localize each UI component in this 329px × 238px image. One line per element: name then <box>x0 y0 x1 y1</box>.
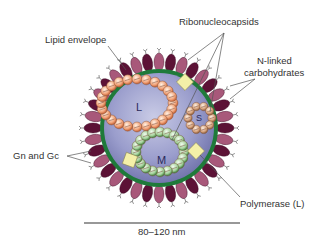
virion-diagram: L M S Lipid envelope Ribonucleocapsids N… <box>0 0 329 238</box>
label-lipid-envelope: Lipid envelope <box>45 34 106 45</box>
segment-label-m: M <box>157 154 166 166</box>
label-gn-gc: Gn and Gc <box>13 150 59 161</box>
label-n-linked: N-linked <box>257 55 292 66</box>
label-polymerase: Polymerase (L) <box>240 198 304 209</box>
segment-label-l: L <box>136 101 142 113</box>
label-carbohydrates: carbohydrates <box>244 67 304 78</box>
scale-bar-label: 80–120 nm <box>138 226 186 237</box>
segment-label-s: S <box>196 113 202 123</box>
label-ribonucleocapsids: Ribonucleocapsids <box>179 16 259 27</box>
